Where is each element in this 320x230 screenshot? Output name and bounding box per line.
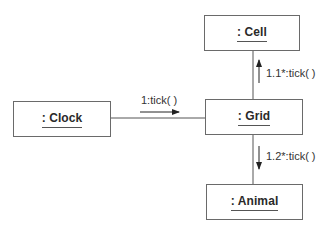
- object-animal: : Animal: [206, 184, 303, 220]
- object-clock: : Clock: [13, 101, 111, 137]
- object-grid: : Grid: [205, 99, 303, 135]
- message-label-grid-cell: 1.1*:tick( ): [266, 67, 316, 79]
- object-clock-label: : Clock: [42, 111, 83, 128]
- object-animal-label: : Animal: [231, 194, 279, 211]
- object-cell-label: : Cell: [237, 25, 267, 42]
- object-grid-label: : Grid: [238, 109, 271, 126]
- message-label-grid-animal: 1.2*:tick( ): [266, 150, 316, 162]
- object-cell: : Cell: [204, 15, 300, 51]
- message-label-clock-grid: 1:tick( ): [141, 94, 177, 106]
